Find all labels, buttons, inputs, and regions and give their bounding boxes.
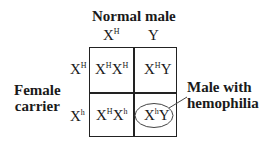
callout-label-male-with-hemophilia: Male with hemophilia [187,79,259,111]
callout-leader-line [169,97,187,108]
callout-line-2: hemophilia [187,95,259,111]
callout-overlay [0,0,273,142]
callout-line-1: Male with [187,79,259,95]
highlight-ellipse [135,104,173,128]
